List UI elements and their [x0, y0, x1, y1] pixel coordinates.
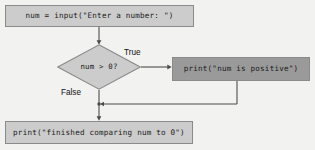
node-input-statement: num = input("Enter a number: "): [5, 5, 194, 27]
edge-label-false: False: [61, 88, 81, 97]
node-final-print: print("finished comparing num to 0"): [5, 121, 193, 144]
flowchart-canvas: num = input("Enter a number: ") num > 0?…: [0, 0, 315, 150]
node-decision-label: num > 0?: [80, 63, 117, 71]
node-true-print: print("num is positive"): [172, 57, 310, 81]
edge-label-true: True: [124, 48, 141, 57]
node-true-label: print("num is positive"): [184, 65, 299, 73]
node-final-label: print("finished comparing num to 0"): [13, 129, 185, 137]
merge-junction: [97, 102, 100, 105]
node-input-label: num = input("Enter a number: "): [26, 12, 174, 20]
